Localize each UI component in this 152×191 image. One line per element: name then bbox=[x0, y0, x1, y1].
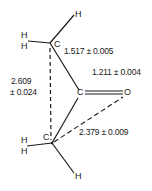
atom-c-lower: C bbox=[43, 133, 50, 142]
bond-c-carbonyl-c-lower bbox=[52, 98, 78, 143]
dashed-c-c-nonbonded bbox=[50, 48, 51, 140]
distance-cc-nonbonded-error: ± 0.024 bbox=[10, 88, 37, 97]
distance-cc-nonbonded-value: 2.609 bbox=[11, 77, 31, 86]
atom-c-upper: C bbox=[54, 40, 61, 49]
atom-h-lower-1: H bbox=[21, 136, 28, 145]
atom-h-bottom: H bbox=[75, 172, 82, 181]
atom-h-lower-2: H bbox=[21, 147, 28, 156]
distance-cc-bond: 1.517 ± 0.005 bbox=[64, 47, 113, 56]
atom-h-upper-1: H bbox=[21, 31, 28, 40]
distance-co-nonbonded: 2.379 ± 0.009 bbox=[79, 128, 128, 137]
acetone-structure-diagram: H H H C C O C H H H 1.517 ± 0.005 1.211 … bbox=[0, 0, 152, 191]
c-lower-node bbox=[51, 142, 54, 145]
distance-co-bond: 1.211 ± 0.004 bbox=[92, 68, 141, 77]
bond-c-lower-h-bottom bbox=[52, 143, 74, 173]
bond-c-upper-h-left bbox=[28, 41, 50, 43]
atom-o: O bbox=[124, 88, 131, 97]
atom-c-carbonyl: C bbox=[77, 88, 84, 97]
atom-h-upper-2: H bbox=[21, 42, 28, 51]
bond-c-lower-h-left bbox=[27, 143, 52, 146]
atom-h-top: H bbox=[75, 10, 82, 19]
